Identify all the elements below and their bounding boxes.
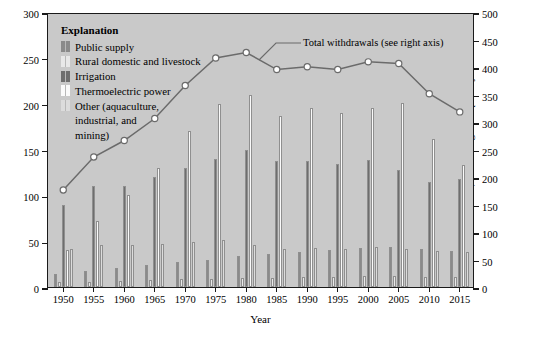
y-axis-right-tick-label: 500	[482, 9, 498, 20]
legend-item: Irrigation	[61, 69, 201, 83]
x-axis-tick-label: 1980	[236, 294, 257, 305]
legend-items: Public supplyRural domestic and livestoc…	[61, 40, 201, 142]
legend-swatch	[61, 41, 70, 52]
legend-item: Public supply	[61, 40, 201, 54]
legend-item-label: Irrigation	[75, 70, 116, 82]
y-axis-right-tick-label: 450	[482, 36, 498, 47]
y-axis-left-tick-label: 0	[34, 284, 39, 295]
legend-title: Explanation	[61, 23, 201, 38]
y-axis-left-tick-label: 200	[23, 100, 39, 111]
y-axis-right-tick-label: 150	[482, 201, 498, 212]
y-axis-right-tick-label: 50	[482, 256, 493, 267]
x-axis-tick-label: 1950	[53, 294, 74, 305]
x-axis-tick-label: 1965	[144, 294, 165, 305]
y-axis-left-tick-label: 100	[23, 192, 39, 203]
legend-item: Thermoelectric power	[61, 84, 201, 98]
legend-item-label: Thermoelectric power	[75, 85, 171, 97]
x-axis-tick-label: 2015	[449, 294, 470, 305]
legend-item-label: Other (aquaculture,	[75, 100, 159, 112]
legend: Explanation Public supplyRural domestic …	[61, 23, 201, 142]
legend-swatch	[61, 71, 70, 82]
legend-swatch-half	[66, 100, 70, 111]
legend-item: Rural domestic and livestock	[61, 54, 201, 68]
plot-area: 050100150200250300 050100150200250300350…	[47, 13, 474, 288]
x-axis-tick-label: 2010	[419, 294, 440, 305]
legend-swatch-half	[66, 85, 70, 96]
x-axis-tick-label: 1995	[327, 294, 348, 305]
y-axis-right-tick-label: 100	[482, 229, 498, 240]
y-axis-left-tick-label: 50	[29, 238, 40, 249]
x-axis-tick-label: 1975	[205, 294, 226, 305]
legend-swatch-half	[66, 56, 70, 67]
legend-swatch-half	[66, 71, 70, 82]
chart-root: Withdrawals, in billion gallons per day …	[0, 0, 559, 337]
x-axis-title: Year	[47, 313, 474, 325]
y-axis-left-tick-label: 250	[23, 54, 39, 65]
legend-swatch	[61, 85, 70, 96]
legend-swatch	[61, 56, 70, 67]
x-axis-tick-label: 2005	[388, 294, 409, 305]
legend-swatch-half	[66, 41, 70, 52]
plot-inner: 050100150200250300 050100150200250300350…	[48, 14, 473, 287]
legend-swatch	[61, 100, 70, 111]
legend-item-label-continued: industrial, and	[75, 113, 201, 127]
y-axis-left-tick-label: 300	[23, 9, 39, 20]
y-axis-right-tick-label: 250	[482, 146, 498, 157]
x-axis-tick-label: 1955	[83, 294, 104, 305]
x-axis-tick-label: 2000	[358, 294, 379, 305]
legend-item-label: Rural domestic and livestock	[75, 55, 201, 67]
legend-item-label-continued: mining)	[75, 128, 201, 142]
annotation-leader	[259, 43, 301, 60]
x-axis-tick-label: 1990	[297, 294, 318, 305]
y-axis-right-tick-label: 400	[482, 64, 498, 75]
x-axis-tick-label: 1960	[114, 294, 135, 305]
x-axis-tick-label: 1970	[175, 294, 196, 305]
legend-item-label: Public supply	[75, 41, 134, 53]
y-axis-right-tick-label: 300	[482, 119, 498, 130]
y-axis-right-tick-label: 350	[482, 91, 498, 102]
x-axis-tick-label: 1985	[266, 294, 287, 305]
y-axis-right-tick-label: 200	[482, 174, 498, 185]
y-axis-right-tick-label: 0	[482, 284, 487, 295]
y-axis-left-tick-label: 150	[23, 146, 39, 157]
legend-item: Other (aquaculture,	[61, 99, 201, 113]
